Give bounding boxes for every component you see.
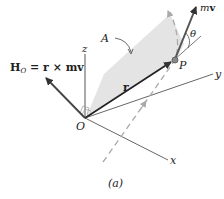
figure-caption: (a) [108, 178, 123, 189]
angular-momentum-diagram: z y x O P A θ r mv HO = r × mv (a) [0, 0, 224, 199]
origin-label: O [76, 121, 85, 132]
point-p-label: P [179, 60, 186, 71]
z-axis-label: z [82, 44, 87, 54]
mv-vector-label: mv [200, 3, 215, 13]
h-o-vector [46, 78, 85, 118]
plane-a [86, 14, 184, 118]
plane-a-label: A [101, 33, 109, 44]
angular-momentum-label: HO = r × mv [10, 62, 84, 75]
r-vector-label: r [123, 82, 129, 93]
x-axis [85, 118, 168, 160]
theta-label: θ [190, 29, 196, 39]
y-axis-label: y [215, 69, 221, 80]
x-axis-label: x [170, 155, 176, 166]
point-p [172, 57, 178, 63]
